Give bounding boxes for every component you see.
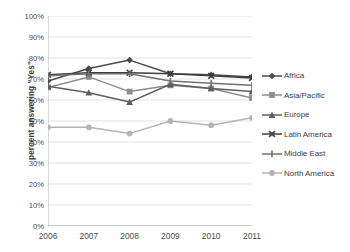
- y-axis-tick-label: 80%: [8, 54, 44, 63]
- legend-item-latin-america[interactable]: Latin America: [262, 125, 350, 145]
- data-point-marker: [48, 124, 51, 130]
- y-axis-tick-label: 20%: [8, 180, 44, 189]
- x-axis-tick-label: 2011: [230, 231, 274, 241]
- y-axis-tick-label: 90%: [8, 33, 44, 42]
- plot-area: [48, 16, 252, 226]
- y-axis-tick-label: 30%: [8, 159, 44, 168]
- legend-item-north-america[interactable]: North America: [262, 164, 350, 184]
- legend-marker-square-icon: [262, 88, 282, 102]
- series-svg: [48, 16, 252, 226]
- legend-label: Europe: [284, 110, 310, 119]
- data-point-marker: [249, 95, 252, 101]
- series-north-america: [48, 115, 252, 137]
- legend-label: Asia/Pacific: [284, 91, 325, 100]
- y-axis-tick-label: 10%: [8, 201, 44, 210]
- legend-label: Africa: [284, 71, 304, 80]
- x-axis-tick-label: 2009: [148, 231, 192, 241]
- data-point-marker: [127, 131, 133, 137]
- series-line: [48, 77, 252, 98]
- data-point-marker: [249, 115, 252, 121]
- data-point-marker: [86, 124, 92, 130]
- data-point-marker: [127, 89, 133, 95]
- chart-container: percent answering "Yes" 0%10%20%30%40%50…: [0, 0, 350, 252]
- x-axis-tick-label: 2008: [108, 231, 152, 241]
- y-axis-tick-label: 60%: [8, 96, 44, 105]
- y-axis-tick-label: 50%: [8, 117, 44, 126]
- legend-label: Latin America: [284, 130, 332, 139]
- legend-marker-dash-icon: [262, 147, 282, 161]
- data-point-marker: [269, 92, 275, 98]
- y-axis-tick-label: 40%: [8, 138, 44, 147]
- legend-item-europe[interactable]: Europe: [262, 105, 350, 125]
- data-point-marker: [269, 170, 275, 176]
- legend-marker-diamond-icon: [262, 69, 282, 83]
- legend-label: North America: [284, 169, 334, 178]
- legend-item-asia-pacific[interactable]: Asia/Pacific: [262, 86, 350, 106]
- y-axis-tick-label: 0%: [8, 222, 44, 231]
- legend-item-africa[interactable]: Africa: [262, 66, 350, 86]
- series-line: [48, 84, 252, 102]
- data-point-marker: [269, 72, 276, 79]
- y-axis-tick-label: 100%: [8, 12, 44, 21]
- data-point-marker: [168, 118, 174, 124]
- x-axis-tick-label: 2010: [189, 231, 233, 241]
- legend-item-middle-east[interactable]: Middle East: [262, 144, 350, 164]
- y-axis-tick-labels: 0%10%20%30%40%50%60%70%80%90%100%: [6, 0, 44, 252]
- legend: AfricaAsia/PacificEuropeLatin AmericaMid…: [262, 66, 350, 183]
- y-axis-tick-label: 70%: [8, 75, 44, 84]
- legend-marker-cross-icon: [262, 127, 282, 141]
- x-axis-tick-label: 2007: [67, 231, 111, 241]
- legend-marker-circle-icon: [262, 166, 282, 180]
- series-line: [48, 118, 252, 134]
- x-axis-tick-label: 2006: [26, 231, 70, 241]
- legend-label: Middle East: [284, 149, 325, 158]
- data-point-marker: [208, 122, 214, 128]
- legend-marker-triangle-icon: [262, 108, 282, 122]
